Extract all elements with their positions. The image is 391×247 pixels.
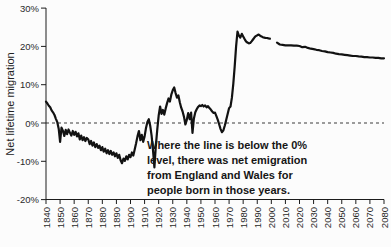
x-tick-label: 2000: [266, 207, 277, 228]
x-tick-label: 2010: [280, 207, 291, 228]
x-tick-label: 2020: [294, 207, 305, 228]
projection-series-line: [277, 43, 384, 59]
annotation-line: from England and Wales for: [147, 168, 322, 183]
y-tick-label: 20%: [20, 41, 40, 52]
x-tick-label: 2060: [350, 207, 361, 228]
x-tick-label: 1910: [139, 207, 150, 228]
x-tick-label: 1840: [41, 207, 52, 228]
y-tick-label: 10%: [20, 79, 40, 90]
x-tick-label: 1900: [125, 207, 136, 228]
x-tick-label: 2040: [322, 207, 333, 228]
x-tick-label: 1920: [153, 207, 164, 228]
x-tick-label: 1880: [97, 207, 108, 228]
x-tick-label: 1940: [181, 207, 192, 228]
x-tick-label: 1970: [224, 207, 235, 228]
x-tick-label: 1960: [210, 207, 221, 228]
x-tick-label: 2050: [336, 207, 347, 228]
x-tick-label: 1860: [69, 207, 80, 228]
chart-annotation: Where the line is below the 0% level, th…: [147, 138, 322, 198]
x-tick-label: 1990: [252, 207, 263, 228]
x-tick-label: 1870: [83, 207, 94, 228]
chart-canvas: 30%20%10%0%-10%-20% 18401850186018701880…: [0, 0, 391, 247]
x-tick-label: 2030: [308, 207, 319, 228]
x-tick-label: 1980: [238, 207, 249, 228]
y-tick-label: -20%: [17, 194, 40, 205]
y-tick-label: -10%: [17, 156, 40, 167]
migration-chart: 30%20%10%0%-10%-20% 18401850186018701880…: [0, 0, 391, 247]
x-tick-label: 1930: [167, 207, 178, 228]
x-axis-ticks: 1840185018601870188018901900191019201930…: [41, 200, 390, 229]
x-tick-label: 1950: [195, 207, 206, 228]
annotation-line: level, there was net emigration: [147, 153, 322, 168]
annotation-line: Where the line is below the 0%: [147, 138, 322, 153]
x-tick-label: 1890: [111, 207, 122, 228]
y-tick-label: 30%: [20, 3, 40, 14]
x-tick-label: 2080: [379, 207, 390, 228]
x-tick-label: 2070: [364, 207, 375, 228]
y-tick-label: 0%: [25, 118, 39, 129]
y-axis-title: Net lifetime migration: [4, 52, 16, 155]
annotation-line: people born in those years.: [147, 183, 322, 198]
y-axis-ticks: 30%20%10%0%-10%-20%: [17, 3, 46, 206]
x-tick-label: 1850: [55, 207, 66, 228]
